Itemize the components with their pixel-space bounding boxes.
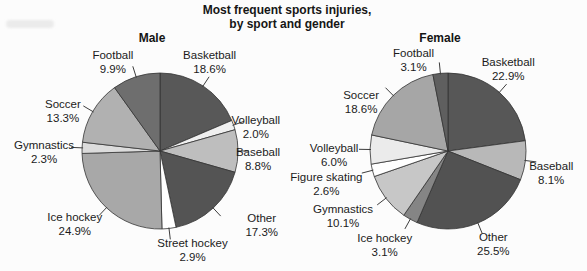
sports-injuries-figure: Most frequent sports injuries, by sport … [0, 0, 587, 271]
leader-line-basketball [203, 77, 210, 87]
slice-value-ice-hockey: 24.9% [58, 225, 91, 237]
pie-title-female: Female [419, 31, 461, 45]
leader-line-figure-skating [362, 170, 374, 173]
pie-chart-female: Basketball22.9%Baseball8.1%Other25.5%Ice… [290, 31, 573, 258]
slice-value-gymnastics: 2.3% [31, 153, 57, 165]
slice-value-baseball: 8.8% [245, 160, 271, 172]
slice-label-other: Other [247, 212, 276, 224]
slice-value-volleyball: 2.0% [243, 128, 269, 140]
slice-label-figure-skating: Figure skating [290, 171, 362, 183]
slice-label-football: Football [92, 49, 133, 61]
slice-label-baseball: Baseball [529, 160, 573, 172]
slice-value-volleyball: 6.0% [321, 156, 347, 168]
slice-value-ice-hockey: 3.1% [372, 246, 398, 258]
leader-line-ice-hockey [405, 218, 411, 229]
slice-value-football: 9.9% [100, 63, 126, 75]
slice-label-gymnastics: Gymnastics [313, 203, 373, 215]
slice-label-gymnastics: Gymnastics [14, 139, 74, 151]
slice-label-other: Other [479, 231, 508, 243]
leader-line-football [133, 66, 137, 77]
pie-title-male: Male [139, 31, 166, 45]
leader-line-football [439, 62, 440, 74]
leader-line-soccer [83, 106, 93, 112]
slice-label-ice-hockey: Ice hockey [357, 232, 412, 244]
slice-label-basketball: Basketball [183, 49, 236, 61]
slice-value-gymnastics: 10.1% [327, 217, 360, 229]
slice-label-street-hockey: Street hockey [157, 237, 228, 249]
pie-charts-canvas: Basketball18.6%Volleyball2.0%Baseball8.8… [0, 0, 587, 271]
slice-value-other: 17.3% [245, 226, 278, 238]
slice-value-figure-skating: 2.6% [313, 185, 339, 197]
leader-line-gymnastics [377, 198, 387, 205]
leader-line-basketball [499, 84, 507, 93]
leader-line-other [213, 207, 221, 216]
pie-chart-male: Basketball18.6%Volleyball2.0%Baseball8.8… [14, 31, 280, 263]
slice-value-other: 25.5% [477, 245, 510, 257]
slice-label-ice-hockey: Ice hockey [47, 211, 102, 223]
slice-label-soccer: Soccer [45, 98, 81, 110]
slice-label-volleyball: Volleyball [310, 142, 359, 154]
leader-line-soccer [386, 88, 394, 97]
slice-value-football: 3.1% [400, 61, 426, 73]
slice-value-street-hockey: 2.9% [179, 251, 205, 263]
slice-value-soccer: 13.3% [47, 112, 80, 124]
slice-value-basketball: 18.6% [193, 63, 226, 75]
pie-slice-basketball [448, 73, 525, 151]
slice-value-baseball: 8.1% [538, 174, 564, 186]
slice-label-basketball: Basketball [482, 56, 535, 68]
slice-label-soccer: Soccer [343, 89, 379, 101]
slice-label-volleyball: Volleyball [232, 114, 281, 126]
slice-value-soccer: 18.6% [345, 103, 378, 115]
slice-value-basketball: 22.9% [492, 70, 525, 82]
slice-label-baseball: Baseball [236, 146, 280, 158]
slice-label-football: Football [393, 47, 434, 59]
